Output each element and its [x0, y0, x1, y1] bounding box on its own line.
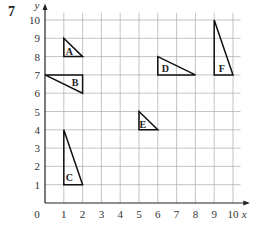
- x-axis-label: x: [241, 208, 247, 220]
- y-tick-label: 7: [35, 69, 41, 81]
- triangle-label-c: C: [66, 172, 73, 183]
- triangle-label-a: A: [66, 46, 74, 57]
- y-axis-arrow-icon: [43, 4, 48, 10]
- y-tick-label: 5: [35, 106, 41, 118]
- y-axis-label: y: [34, 0, 40, 11]
- y-tick-label: 8: [35, 51, 41, 63]
- x-tick-label: 9: [211, 208, 217, 220]
- x-tick-label: 6: [155, 208, 161, 220]
- y-tick-label: 1: [35, 179, 41, 191]
- triangle-label-f: F: [219, 63, 225, 74]
- y-tick-label: 4: [35, 124, 41, 136]
- x-tick-label: 10: [228, 208, 240, 220]
- y-tick-label: 3: [35, 142, 41, 154]
- x-tick-label: 5: [136, 208, 142, 220]
- triangle-label-e: E: [139, 119, 146, 130]
- coordinate-grid: 12345678910123456789100xyABCDEF: [0, 0, 262, 234]
- y-tick-label: 2: [35, 160, 41, 172]
- x-tick-label: 2: [80, 208, 86, 220]
- triangle-label-d: D: [162, 63, 169, 74]
- triangle-label-b: B: [72, 77, 79, 88]
- x-tick-label: 7: [174, 208, 180, 220]
- x-axis-arrow-icon: [243, 201, 250, 206]
- x-tick-label: 3: [99, 208, 105, 220]
- x-tick-label: 8: [193, 208, 199, 220]
- x-tick-label: 1: [61, 208, 67, 220]
- y-tick-label: 6: [35, 87, 41, 99]
- y-tick-label: 10: [29, 14, 41, 26]
- x-tick-label: 4: [117, 208, 123, 220]
- y-tick-label: 9: [35, 32, 41, 44]
- origin-label: 0: [34, 208, 40, 220]
